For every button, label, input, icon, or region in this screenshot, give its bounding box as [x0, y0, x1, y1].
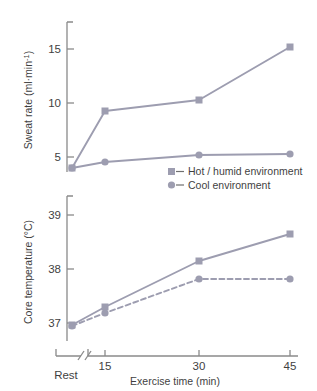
bottom-series-cool-line	[72, 279, 290, 326]
figure-container: 15 10 5 Sweat rate (ml·min-1)	[0, 0, 317, 391]
bottom-ytick-label-38: 38	[48, 263, 61, 275]
top-ylabel-unit: min	[22, 61, 34, 78]
bottom-marker-cool-15	[101, 309, 108, 316]
top-marker-hot-45	[287, 44, 294, 51]
top-ylabel-close: )	[22, 51, 34, 55]
xtick-label-30: 30	[193, 360, 206, 372]
xtick-label-45: 45	[284, 360, 297, 372]
x-axis-title: Exercise time (min)	[130, 375, 220, 387]
legend-label-cool: Cool environment	[188, 179, 270, 191]
top-ylabel-sup: -1	[22, 54, 31, 61]
legend-item-cool[interactable]: Cool environment	[168, 179, 270, 191]
top-marker-hot-15	[102, 108, 109, 115]
top-marker-cool-rest	[68, 164, 75, 171]
legend: Hot / humid environment Cool environment	[168, 165, 303, 191]
bottom-y-axis-title: Core temperature (°C)	[22, 220, 34, 324]
shared-x-axis: 15 30 45 Rest Exercise time (min)	[54, 349, 298, 387]
dual-line-chart: 15 10 5 Sweat rate (ml·min-1)	[0, 0, 317, 391]
top-y-axis-line	[67, 22, 73, 172]
svg-text:Sweat rate (ml·min-1): Sweat rate (ml·min-1)	[22, 51, 35, 149]
legend-item-hot-humid[interactable]: Hot / humid environment	[168, 165, 302, 177]
xtick-label-rest: Rest	[54, 369, 78, 381]
top-y-axis-title: Sweat rate (ml·min-1)	[22, 51, 35, 149]
bottom-marker-cool-45	[286, 275, 293, 282]
legend-marker-square-icon	[168, 168, 175, 175]
bottom-marker-hot-45	[287, 231, 294, 238]
bottom-marker-cool-rest	[68, 322, 75, 329]
top-marker-cool-15	[101, 158, 108, 165]
x-axis-main-line	[88, 349, 298, 356]
top-marker-cool-30	[195, 151, 202, 158]
panel-sweat-rate: 15 10 5 Sweat rate (ml·min-1)	[22, 22, 294, 172]
bottom-ytick-label-39: 39	[48, 209, 61, 221]
top-ytick-label-10: 10	[48, 97, 61, 109]
bottom-marker-cool-30	[195, 275, 202, 282]
top-ytick-label-5: 5	[55, 151, 61, 163]
legend-label-hot-humid: Hot / humid environment	[188, 165, 302, 177]
top-ylabel-main: Sweat rate (ml	[22, 81, 34, 149]
top-marker-cool-45	[286, 150, 293, 157]
bottom-ytick-label-37: 37	[48, 317, 61, 329]
panel-core-temperature: 39 38 37 Core temperature (°C)	[22, 196, 294, 341]
bottom-ylabel-text: Core temperature (°C)	[22, 220, 34, 324]
x-axis-rest-stub	[56, 349, 81, 356]
xtick-label-15: 15	[99, 360, 112, 372]
top-ytick-label-15: 15	[48, 43, 61, 55]
bottom-marker-hot-30	[196, 258, 203, 265]
top-marker-hot-30	[196, 97, 203, 104]
legend-marker-circle-icon	[168, 181, 175, 188]
